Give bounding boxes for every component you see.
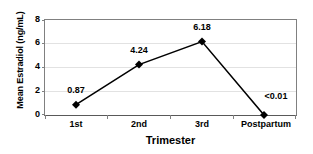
chart-container: Mean Estradiol (ng/mL) 8 6 4 2 0 (0, 0, 313, 154)
data-label-1st: 0.87 (67, 86, 85, 95)
x-tick-label-3rd: 3rd (195, 119, 209, 129)
x-axis-title: Trimester (44, 134, 297, 146)
y-tick-label-2: 2 (26, 86, 40, 95)
data-point-marker-1st (72, 101, 80, 109)
y-axis-tick-labels: 8 6 4 2 0 (24, 0, 40, 154)
x-axis-tick-labels: 1st 2nd 3rd Postpartum (44, 119, 297, 131)
data-label-3rd: 6.18 (193, 23, 211, 32)
data-label-postpartum: <0.01 (265, 92, 288, 101)
y-tick-label-4: 4 (26, 62, 40, 71)
y-tick-label-0: 0 (26, 110, 40, 119)
x-tick-label-1st: 1st (69, 119, 82, 129)
data-series-estradiol (45, 20, 296, 115)
y-tick-label-8: 8 (26, 15, 40, 24)
x-tick-label-2nd: 2nd (131, 119, 147, 129)
data-point-marker-2nd (135, 61, 143, 69)
x-tick-label-postpartum: Postpartum (241, 119, 291, 129)
series-line (76, 42, 264, 115)
plot-area: 0.87 4.24 6.18 <0.01 (44, 19, 297, 116)
data-label-2nd: 4.24 (130, 46, 148, 55)
y-tick-label-6: 6 (26, 38, 40, 47)
